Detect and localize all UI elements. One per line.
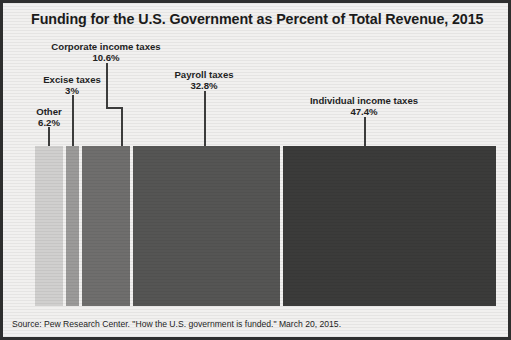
leader-line-corporate-lower <box>121 107 123 146</box>
bar-segment-individual[interactable] <box>283 146 496 306</box>
segment-label-individual: Individual income taxes 47.4% <box>261 95 467 117</box>
bar-segment-other[interactable] <box>35 146 63 306</box>
chart-title: Funding for the U.S. Government as Perce… <box>31 11 483 27</box>
segment-label-payroll-name: Payroll taxes <box>121 69 287 80</box>
segment-label-payroll: Payroll taxes 32.8% <box>121 69 287 91</box>
segment-label-corporate-value: 10.6% <box>25 52 187 63</box>
segment-label-other-name: Other <box>3 106 95 117</box>
segment-label-payroll-value: 32.8% <box>121 80 287 91</box>
source-note: Source: Pew Research Center. "How the U.… <box>12 319 341 329</box>
segment-label-corporate-name: Corporate income taxes <box>25 41 187 52</box>
bar-segment-excise[interactable] <box>66 146 79 306</box>
chart-frame: Funding for the U.S. Government as Perce… <box>0 0 511 340</box>
segment-label-corporate: Corporate income taxes 10.6% <box>25 41 187 63</box>
stacked-bar <box>35 146 496 306</box>
segment-label-individual-name: Individual income taxes <box>261 95 467 106</box>
segment-label-individual-value: 47.4% <box>261 106 467 117</box>
bar-segment-payroll[interactable] <box>133 146 280 306</box>
leader-line-individual <box>364 117 366 146</box>
bar-segment-corporate[interactable] <box>82 146 130 306</box>
segment-label-other: Other 6.2% <box>3 106 95 128</box>
leader-line-corporate-upper <box>106 63 108 108</box>
chart-canvas: Funding for the U.S. Government as Perce… <box>3 3 508 337</box>
leader-line-corporate-elbow <box>106 107 122 109</box>
leader-line-excise <box>72 95 74 146</box>
leader-line-other <box>48 127 50 146</box>
leader-line-payroll <box>204 91 206 146</box>
